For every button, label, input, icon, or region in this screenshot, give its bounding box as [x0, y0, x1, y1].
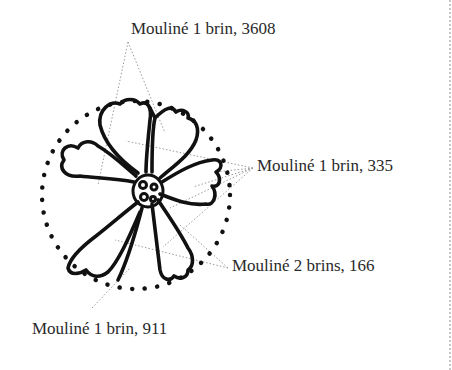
flower-illustration — [0, 0, 452, 370]
label-mouline-911: Mouliné 1 brin, 911 — [32, 320, 167, 337]
petals — [62, 100, 221, 281]
label-mouline-3608: Mouliné 1 brin, 3608 — [131, 20, 276, 37]
label-mouline-166: Mouliné 2 brins, 166 — [232, 257, 375, 274]
label-mouline-335: Mouliné 1 brin, 335 — [257, 157, 393, 174]
flower-centre — [133, 175, 163, 207]
embroidery-diagram: Mouliné 1 brin, 3608 Mouliné 1 brin, 335… — [0, 0, 452, 370]
page-edge-divider — [449, 0, 451, 370]
